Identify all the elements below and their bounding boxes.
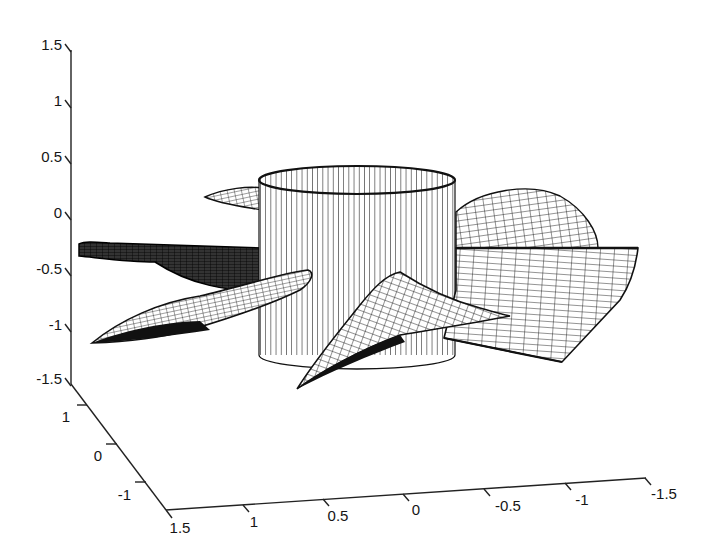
z-tick-label: 1 [54, 92, 62, 109]
z-tick-label: 1.5 [41, 36, 62, 53]
x-axis: 1.5 1 0.5 0 -0.5 -1 -1.5 [166, 478, 677, 536]
z-tick-label: 0.5 [41, 148, 62, 165]
z-tick-label: -1.5 [36, 370, 62, 387]
blade-left-dark [79, 242, 262, 290]
z-tick-label: -0.5 [36, 260, 62, 277]
y-axis: 1 0 -1 [62, 384, 166, 510]
x-tick-label: 0 [412, 501, 420, 518]
x-tick-label: 1.5 [170, 519, 191, 536]
x-tick-label: -0.5 [495, 497, 521, 514]
y-tick-label: 0 [94, 447, 102, 464]
y-tick-label: 1 [62, 408, 70, 425]
x-tick-label: 0.5 [328, 507, 349, 524]
x-tick-label: -1 [575, 491, 588, 508]
fan-surface-plot: 1.5 1 0.5 0 -0.5 -1 -1.5 1 0 -1 1.5 1 0.… [0, 0, 708, 555]
blade-back-right [456, 189, 598, 248]
x-tick-label: 1 [250, 513, 258, 530]
z-tick-label: 0 [54, 204, 62, 221]
x-tick-label: -1.5 [651, 485, 677, 502]
y-tick-label: -1 [118, 486, 131, 503]
blade-back-left [205, 187, 262, 210]
z-axis: 1.5 1 0.5 0 -0.5 -1 -1.5 [36, 36, 71, 387]
z-tick-label: -1 [49, 316, 62, 333]
